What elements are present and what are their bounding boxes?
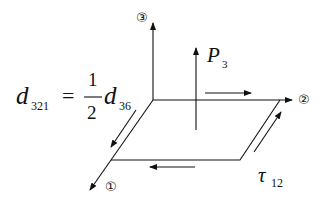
- axis-3-label: ③: [136, 10, 148, 25]
- shear-stress-symbol: τ: [258, 163, 267, 187]
- equation-denominator: 2: [87, 102, 97, 123]
- polarization-symbol: P: [206, 43, 220, 67]
- equation-lhs-symbol: d: [16, 82, 29, 109]
- diagram-canvas: ③ ② ① P 3 τ 12 d 321 = 1 2 d 36: [0, 0, 335, 203]
- polarization-subscript: 3: [222, 58, 228, 70]
- equation-rhs-subscript: 36: [119, 99, 131, 113]
- axis-1-label: ①: [105, 179, 117, 194]
- axis-1-line: [90, 100, 153, 190]
- axis-2-label: ②: [298, 92, 310, 107]
- equation-numerator: 1: [88, 69, 98, 90]
- piezoelectric-shear-diagram: ③ ② ① P 3 τ 12 d 321 = 1 2 d 36: [0, 0, 335, 203]
- shear-stress-subscript: 12: [271, 176, 283, 190]
- equation-rhs-symbol: d: [104, 82, 117, 109]
- equation-equals: =: [62, 83, 74, 108]
- equation-lhs-subscript: 321: [31, 99, 49, 113]
